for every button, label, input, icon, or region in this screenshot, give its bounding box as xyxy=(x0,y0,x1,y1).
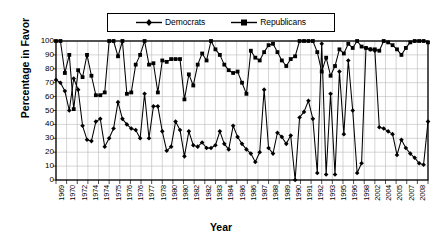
x-tick-label: 1989 xyxy=(284,185,291,201)
x-tick-label: 1983 xyxy=(216,185,223,201)
x-tick-label: 1998 xyxy=(363,185,370,201)
x-axis-ticks: 1969197019721974197419751976197619771978… xyxy=(0,185,442,219)
x-tick-label: 2007 xyxy=(408,185,415,201)
x-tick-label: 1976 xyxy=(126,185,133,201)
x-tick-label: 1987 xyxy=(261,185,268,201)
x-tick-label: 1982 xyxy=(193,185,200,201)
x-tick-label: 1995 xyxy=(340,185,347,201)
x-tick-label: 1970 xyxy=(69,185,76,201)
x-tick-label: 1986 xyxy=(239,185,246,201)
x-tick-label: 1992 xyxy=(317,185,324,201)
x-tick-label: 1980 xyxy=(171,185,178,201)
x-tick-label: 1991 xyxy=(306,185,313,201)
x-tick-label: 1996 xyxy=(351,185,358,201)
x-tick-label: 1982 xyxy=(205,185,212,201)
x-axis-title: Year xyxy=(0,221,442,233)
x-tick-label: 2002 xyxy=(374,185,381,201)
x-tick-label: 1977 xyxy=(148,185,155,201)
x-tick-label: 1988 xyxy=(272,185,279,201)
x-tick-label: 1993 xyxy=(329,185,336,201)
x-tick-label: 1972 xyxy=(81,185,88,201)
x-tick-label: 1969 xyxy=(58,185,65,201)
x-tick-label: 2008 xyxy=(419,185,426,201)
x-tick-label: 1984 xyxy=(227,185,234,201)
x-tick-label: 2004 xyxy=(385,185,392,201)
x-tick-label: 1976 xyxy=(137,185,144,201)
x-tick-label: 1975 xyxy=(115,185,122,201)
x-tick-label: 1978 xyxy=(160,185,167,201)
x-tick-label: 1974 xyxy=(92,185,99,201)
x-tick-label: 2005 xyxy=(396,185,403,201)
x-tick-label: 1990 xyxy=(295,185,302,201)
x-tick-label: 1986 xyxy=(250,185,257,201)
x-tick-label: 1974 xyxy=(103,185,110,201)
chart-container: Democrats Republicans Percentage in Favo… xyxy=(0,0,442,242)
x-tick-label: 1980 xyxy=(182,185,189,201)
